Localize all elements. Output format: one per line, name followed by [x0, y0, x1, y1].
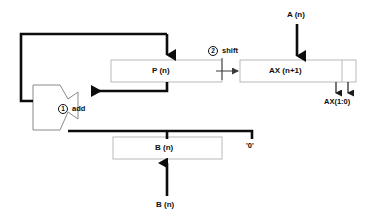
step-shift-label: shift: [222, 46, 238, 55]
step-add-label: add: [72, 104, 85, 113]
ax-low-bits-label: AX(1:0): [324, 98, 350, 106]
a-input-label: A (n): [287, 11, 305, 19]
step-shift-annotation: 2 shift: [208, 46, 238, 56]
zero-constant-label: '0': [246, 142, 254, 150]
step-add-annotation: 1 add: [58, 104, 85, 114]
step-1-badge: 1: [58, 104, 68, 114]
diagram-canvas: P (n) AX (n+1) B (n) A (n) B (n) AX(1:0)…: [0, 0, 370, 224]
b-register-label: B (n): [155, 144, 173, 152]
ax-register-label: AX (n+1): [269, 67, 302, 75]
b-input-label: B (n): [156, 201, 174, 209]
p-register-label: P (n): [152, 67, 170, 75]
datapath-diagram: [0, 0, 370, 224]
step-2-badge: 2: [208, 46, 218, 56]
register-boxes: [111, 60, 356, 159]
p-output-wire: [92, 82, 167, 91]
